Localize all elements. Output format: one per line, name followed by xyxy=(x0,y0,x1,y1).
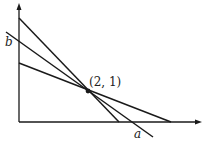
intersection-label: (2, 1) xyxy=(89,75,121,89)
intersection-point xyxy=(86,89,91,94)
x-axis-arrow-icon xyxy=(195,120,202,125)
shallow-line xyxy=(19,63,171,122)
line-b-a xyxy=(6,32,153,137)
steep-line xyxy=(19,18,119,122)
y-axis-arrow-icon xyxy=(17,3,22,10)
line-label-b: b xyxy=(5,35,13,49)
diagram-canvas: (2, 1) b a xyxy=(0,0,210,147)
line-label-a: a xyxy=(134,127,141,141)
